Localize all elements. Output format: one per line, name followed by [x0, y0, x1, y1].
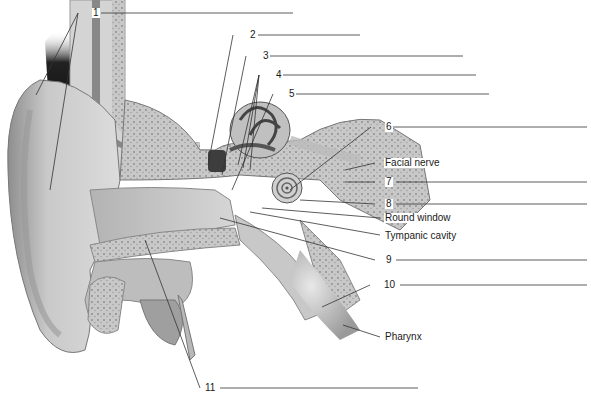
- label-5: 5: [288, 89, 296, 99]
- label-tympanic-cavity: Tympanic cavity: [384, 231, 457, 241]
- ear-anatomy-diagram: 1 2 3 4 5 6 7 8 9 10 11 Facial nerve Rou…: [0, 0, 591, 405]
- label-pharynx: Pharynx: [384, 332, 423, 342]
- label-4: 4: [275, 70, 283, 80]
- ear-illustration: [0, 0, 591, 405]
- label-6: 6: [385, 122, 393, 132]
- label-8: 8: [385, 199, 393, 209]
- label-facial-nerve: Facial nerve: [384, 158, 440, 168]
- label-round-window: Round window: [384, 213, 452, 223]
- label-1: 1: [92, 8, 100, 18]
- label-2: 2: [249, 30, 257, 40]
- label-7: 7: [385, 177, 393, 187]
- label-3: 3: [262, 51, 270, 61]
- label-11: 11: [204, 383, 216, 393]
- label-10: 10: [383, 280, 396, 290]
- label-9: 9: [385, 255, 393, 265]
